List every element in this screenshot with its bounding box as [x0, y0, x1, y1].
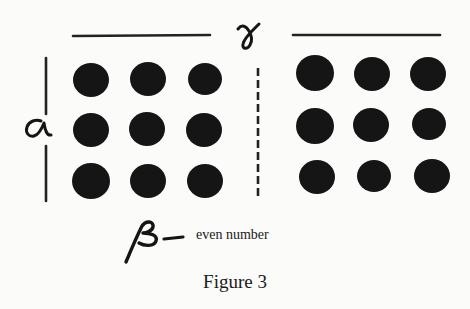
diagram-svg [0, 0, 470, 309]
dot [414, 159, 450, 193]
gamma-symbol [238, 24, 259, 48]
dot [73, 113, 109, 147]
dot [186, 113, 222, 147]
dot [354, 57, 390, 91]
dot [130, 164, 166, 198]
beta-dash [164, 237, 183, 239]
dot [412, 108, 446, 140]
dot [129, 112, 165, 146]
even-number-label: even number [196, 227, 269, 243]
dot [410, 57, 446, 91]
alpha-symbol [26, 120, 51, 136]
dot [188, 63, 222, 95]
dot [296, 55, 334, 91]
figure-canvas: even number Figure 3 [0, 0, 470, 309]
dot [73, 63, 109, 97]
dot [296, 108, 334, 144]
top-left-span-line [73, 35, 210, 36]
left-dot-grid [72, 62, 223, 199]
dot [72, 163, 110, 199]
right-dot-grid [296, 55, 450, 194]
figure-caption: Figure 3 [0, 271, 470, 293]
dot [130, 62, 166, 96]
beta-symbol [126, 222, 156, 262]
dot [353, 108, 389, 142]
dot [357, 160, 391, 192]
dot [299, 160, 335, 194]
dot [187, 164, 223, 198]
